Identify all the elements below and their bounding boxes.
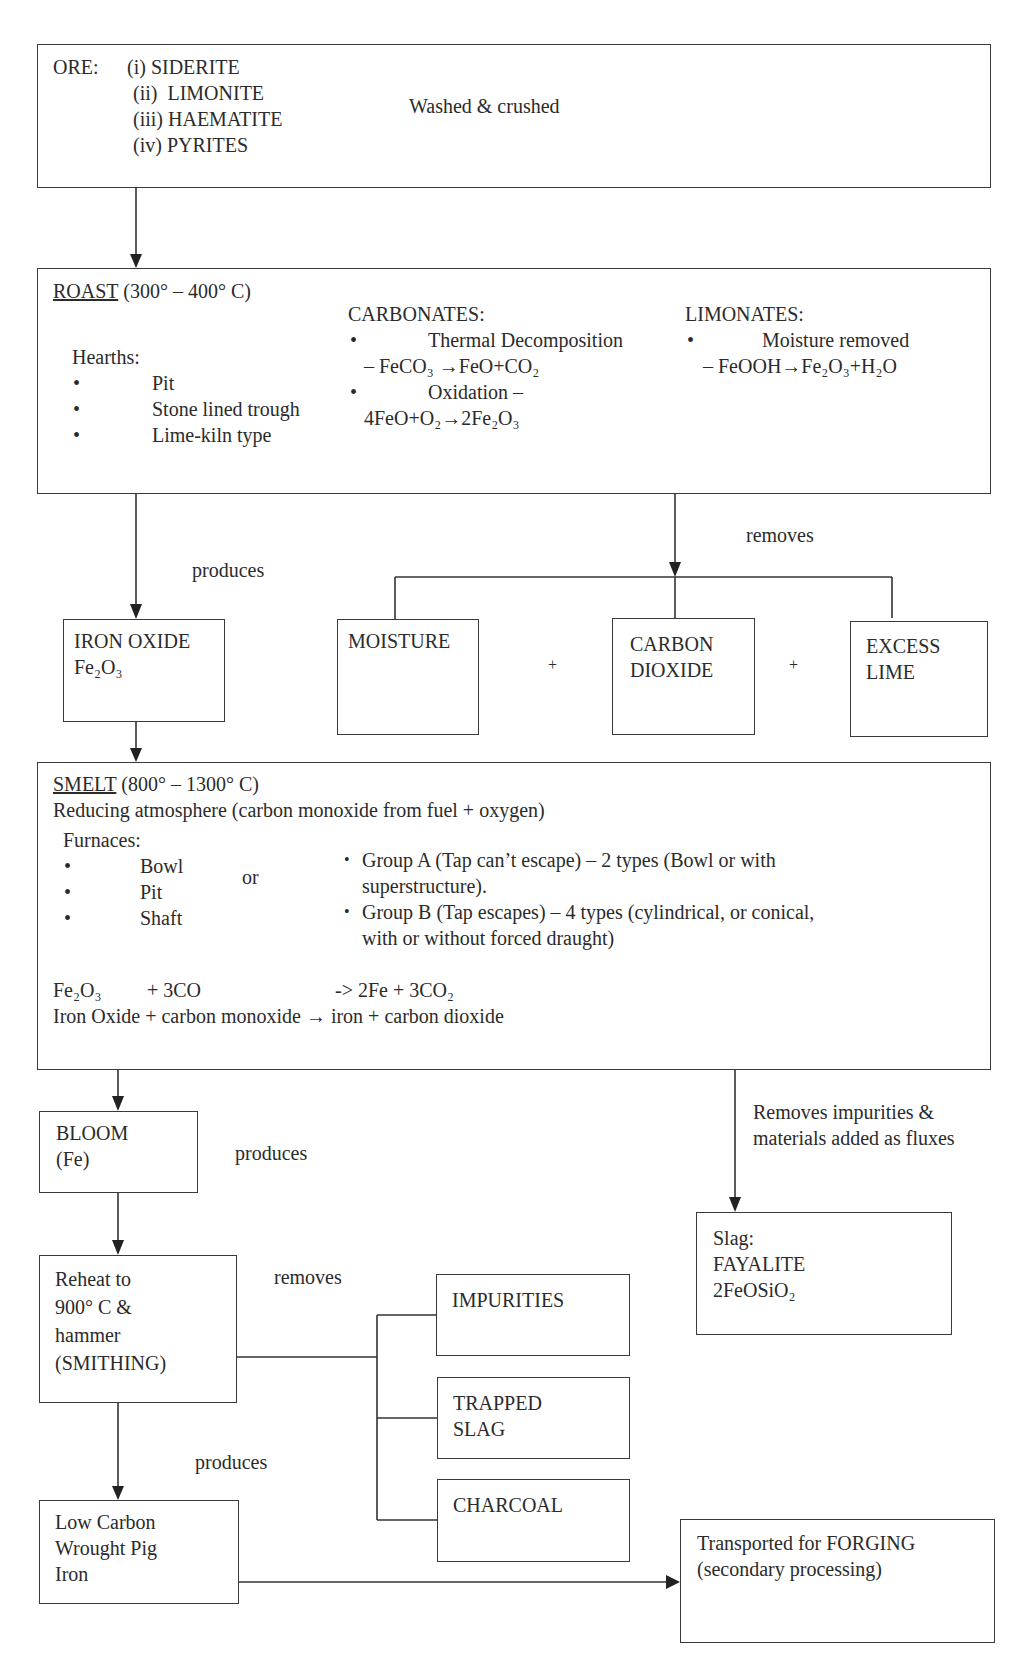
roast-heading: ROAST (300° – 400° C) — [53, 278, 251, 304]
wrought-line: Iron — [55, 1561, 88, 1587]
equation-reactant2: + 3CO — [147, 977, 201, 1003]
limonate-title: Moisture removed — [762, 327, 909, 353]
excess-lime-box: EXCESS LIME — [850, 621, 988, 737]
reheat-box: Reheat to 900° C & hammer (SMITHING) — [39, 1255, 237, 1403]
group-b-line1: Group B (Tap escapes) – 4 types (cylindr… — [362, 899, 814, 925]
hearth-item: Lime-kiln type — [152, 422, 271, 448]
equation-product: -> 2Fe + 3CO₂ — [335, 977, 454, 1003]
ore-item: (iv) PYRITES — [133, 132, 248, 158]
plus-sign: + — [548, 652, 557, 678]
carbonate-eq: 4FeO+O₂→2Fe₂O₃ — [364, 405, 520, 431]
produces-label: produces — [235, 1140, 307, 1166]
furnaces-label: Furnaces: — [63, 827, 141, 853]
smelt-title: SMELT — [53, 773, 116, 795]
wrought-iron-box: Low Carbon Wrought Pig Iron — [39, 1500, 239, 1604]
reheat-line: (SMITHING) — [55, 1350, 166, 1376]
carbonate-eq: – FeCO₃ →FeO+CO₂ — [364, 353, 539, 379]
wrought-line: Wrought Pig — [55, 1535, 157, 1561]
reheat-line: 900° C & — [55, 1294, 132, 1320]
bullet-icon: • — [344, 847, 350, 873]
ore-item: (i) SIDERITE — [127, 54, 240, 80]
forging-line1: Transported for FORGING — [697, 1530, 915, 1556]
slag-formula: 2FeOSiO₂ — [713, 1277, 796, 1303]
forging-box: Transported for FORGING (secondary proce… — [680, 1519, 995, 1643]
bullet-icon: • — [64, 853, 71, 879]
byproduct-label: MOISTURE — [348, 628, 450, 654]
bloom-box: BLOOM (Fe) — [39, 1111, 198, 1193]
slag-note-line2: materials added as fluxes — [753, 1125, 955, 1151]
bullet-icon: • — [64, 879, 71, 905]
byproduct-label: CHARCOAL — [453, 1492, 563, 1518]
bullet-icon: • — [344, 899, 350, 925]
carbon-dioxide-box: CARBON DIOXIDE — [612, 618, 755, 735]
byproduct-label: CARBON — [630, 631, 713, 657]
byproduct-label: LIME — [866, 659, 915, 685]
byproduct-label: SLAG — [453, 1416, 505, 1442]
equation-words: Iron Oxide + carbon monoxide → iron + ca… — [53, 1003, 504, 1029]
produces-label: produces — [195, 1449, 267, 1475]
smelt-box: SMELT (800° – 1300° C) Reducing atmosphe… — [37, 762, 991, 1070]
carbonate-title: Oxidation – — [428, 379, 523, 405]
smelt-temp: (800° – 1300° C) — [116, 773, 259, 795]
ore-label: ORE: — [53, 54, 99, 80]
smelt-atmosphere: Reducing atmosphere (carbon monoxide fro… — [53, 797, 545, 823]
charcoal-box: CHARCOAL — [437, 1479, 630, 1562]
reheat-line: Reheat to — [55, 1266, 131, 1292]
furnace-item: Bowl — [140, 853, 183, 879]
byproduct-label: IMPURITIES — [452, 1287, 564, 1313]
slag-box: Slag: FAYALITE 2FeOSiO₂ — [696, 1212, 952, 1335]
ore-item: (ii) LIMONITE — [133, 80, 264, 106]
bullet-icon: • — [73, 370, 80, 396]
slag-label: Slag: — [713, 1225, 754, 1251]
byproduct-label: EXCESS — [866, 633, 940, 659]
ore-box: ORE: (i) SIDERITE (ii) LIMONITE (iii) HA… — [37, 44, 991, 188]
bullet-icon: • — [73, 422, 80, 448]
limonates-label: LIMONATES: — [685, 301, 804, 327]
byproduct-label: DIOXIDE — [630, 657, 713, 683]
or-label: or — [242, 864, 259, 890]
byproduct-label: TRAPPED — [453, 1390, 542, 1416]
roast-temp: (300° – 400° C) — [118, 280, 251, 302]
ore-note: Washed & crushed — [409, 93, 560, 119]
furnace-item: Shaft — [140, 905, 182, 931]
bullet-icon: • — [64, 905, 71, 931]
hearth-item: Pit — [152, 370, 174, 396]
bullet-icon: • — [350, 327, 357, 353]
group-a-line1: Group A (Tap can’t escape) – 2 types (Bo… — [362, 847, 776, 873]
ore-item: (iii) HAEMATITE — [133, 106, 282, 132]
equation-reactant1: Fe₂O₃ — [53, 977, 101, 1003]
bloom-label: BLOOM — [56, 1120, 128, 1146]
slag-note-line1: Removes impurities & — [753, 1099, 934, 1125]
trapped-slag-box: TRAPPED SLAG — [437, 1377, 630, 1459]
bullet-icon: • — [73, 396, 80, 422]
iron-oxide-formula: Fe₂O₃ — [74, 654, 122, 680]
iron-oxide-label: IRON OXIDE — [74, 628, 190, 654]
moisture-box: MOISTURE — [337, 619, 479, 735]
carbonates-label: CARBONATES: — [348, 301, 485, 327]
hearth-item: Stone lined trough — [152, 396, 300, 422]
reheat-line: hammer — [55, 1322, 121, 1348]
limonate-eq: – FeOOH→Fe₂O₃+H₂O — [703, 353, 897, 379]
carbonate-title: Thermal Decomposition — [428, 327, 623, 353]
furnace-item: Pit — [140, 879, 162, 905]
forging-line2: (secondary processing) — [697, 1556, 882, 1582]
produces-label: produces — [192, 557, 264, 583]
wrought-line: Low Carbon — [55, 1509, 156, 1535]
group-a-line2: superstructure). — [362, 873, 487, 899]
iron-oxide-box: IRON OXIDE Fe₂O₃ — [63, 619, 225, 722]
bloom-formula: (Fe) — [56, 1146, 89, 1172]
roast-title: ROAST — [53, 280, 118, 302]
roast-box: ROAST (300° – 400° C) Hearths: • Pit • S… — [37, 268, 991, 494]
smelt-heading: SMELT (800° – 1300° C) — [53, 771, 259, 797]
group-b-line2: with or without forced draught) — [362, 925, 614, 951]
bullet-icon: • — [350, 379, 357, 405]
plus-sign: + — [789, 652, 798, 678]
removes-label: removes — [274, 1264, 342, 1290]
hearths-label: Hearths: — [72, 344, 140, 370]
impurities-box: IMPURITIES — [436, 1274, 630, 1356]
removes-label: removes — [746, 522, 814, 548]
bullet-icon: • — [687, 327, 694, 353]
slag-mineral: FAYALITE — [713, 1251, 805, 1277]
